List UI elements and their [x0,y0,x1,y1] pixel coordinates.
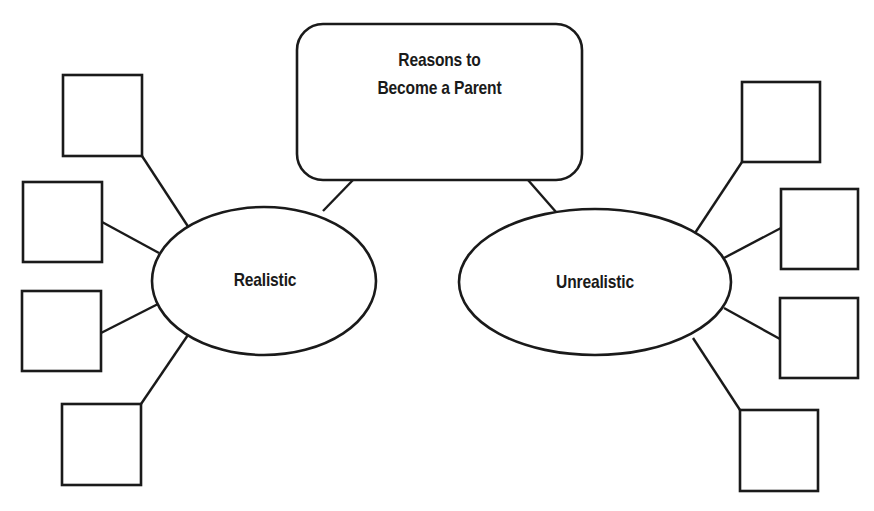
realistic-blank-box-1[interactable] [63,75,142,156]
realistic-blank-box-3[interactable] [22,291,101,371]
unrealistic-blank-box-1[interactable] [742,82,820,162]
connector-title-unrealistic [528,180,556,212]
connector-realistic-box-3 [101,304,158,333]
title-line-2: Become a Parent [323,74,557,102]
unrealistic-blank-box-4[interactable] [740,410,818,491]
unrealistic-blank-box-3[interactable] [780,298,858,378]
connector-realistic-box-4 [141,332,190,404]
realistic-blank-box-4[interactable] [62,404,141,485]
connector-title-realistic [323,180,353,211]
unrealistic-blank-box-2[interactable] [781,189,858,269]
realistic-blank-box-2[interactable] [23,182,102,262]
connector-unrealistic-box-1 [695,162,742,233]
connector-realistic-box-2 [102,222,159,253]
realistic-label: Realistic [204,268,327,292]
connector-realistic-box-1 [142,156,189,228]
unrealistic-label: Unrealistic [534,270,657,294]
title-line-1: Reasons to [323,46,557,74]
connector-unrealistic-box-4 [693,338,740,410]
connector-unrealistic-box-3 [724,308,780,339]
diagram-title: Reasons to Become a Parent [323,46,557,102]
connector-unrealistic-box-2 [724,228,781,258]
